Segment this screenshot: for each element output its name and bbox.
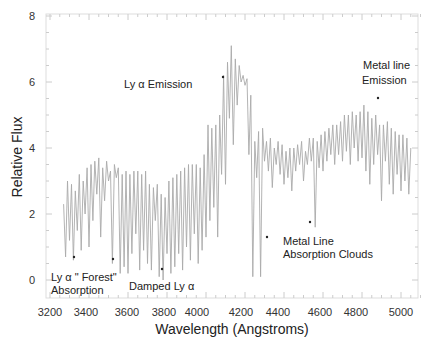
annotation-damped-lya: Damped Ly α (129, 280, 195, 292)
y-tick-label: 8 (29, 10, 35, 22)
metal-absorption-marker-1 (266, 236, 268, 238)
damped-marker (161, 268, 163, 270)
annotation-metal-absorption-line1: Metal Line (283, 235, 334, 247)
y-tick-label: 2 (29, 208, 35, 220)
x-tick-label: 3200 (38, 306, 62, 318)
annotation-metal-emission-line1: Metal line (363, 59, 410, 71)
x-tick-label: 3600 (115, 306, 139, 318)
y-tick-label: 0 (29, 274, 35, 286)
forest-marker-2 (112, 258, 114, 260)
spectrum-line (64, 46, 411, 280)
x-tick-label: 4600 (308, 306, 332, 318)
annotation-lya-emission: Ly α Emission (124, 78, 192, 90)
annotation-metal-emission-line2: Emission (362, 74, 407, 86)
metal-line-emission-marker (377, 97, 379, 99)
x-axis-title: Wavelength (Angstroms) (155, 321, 309, 337)
ly-alpha-emission-marker (222, 76, 224, 78)
forest-marker-1 (73, 256, 75, 258)
x-tick-label: 5000 (389, 306, 413, 318)
x-tick-label: 3400 (74, 306, 98, 318)
y-tick-label: 4 (29, 142, 35, 154)
x-tick-labels: 3200340036003800400042004400460048005000 (38, 306, 413, 318)
y-tick-label: 6 (29, 76, 35, 88)
x-tick-label: 4200 (229, 306, 253, 318)
x-tick-label: 4400 (266, 306, 290, 318)
metal-absorption-marker-2 (309, 221, 311, 223)
spectrum-series (64, 46, 411, 280)
annotation-forest-line1: Ly α " Forest" (51, 271, 117, 283)
annotation-metal-absorption-line2: Absorption Clouds (283, 248, 373, 260)
quasar-spectrum-chart: 02468 3200340036003800400042004400460048… (0, 0, 430, 347)
y-axis-title: Relative Flux (9, 117, 25, 198)
y-tick-labels: 02468 (29, 10, 35, 286)
x-tick-label: 4800 (344, 306, 368, 318)
x-tick-label: 4000 (185, 306, 209, 318)
annotation-forest-line2: Absorption (51, 284, 104, 296)
x-tick-label: 3800 (152, 306, 176, 318)
